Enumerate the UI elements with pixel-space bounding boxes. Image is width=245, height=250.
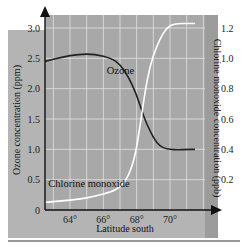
y-left-tick-label: 0.5 (28, 174, 41, 185)
y-axis-arrow-icon (40, 6, 50, 17)
y-left-tick-label: 0 (35, 205, 40, 216)
x-tick-label: 70° (163, 214, 177, 225)
y-right-tick-label: 1.2 (221, 23, 234, 34)
y-left-tick-label: 3.0 (28, 23, 41, 34)
y-left-tick-label: 1.0 (28, 144, 41, 155)
y-left-tick-label: 2.5 (28, 53, 41, 64)
series-label-chlorine-monoxide: Chlorine monoxide (48, 178, 130, 189)
y-axis-right-label: Chlorine monoxide concentration (ppb) (211, 39, 223, 198)
chart: 64°66°68°70°00.51.01.52.02.53.00.20.40.6… (0, 0, 245, 250)
y-axis-left-label: Ozone concentration (ppm) (11, 65, 23, 175)
y-left-tick-label: 2.0 (28, 83, 41, 94)
x-axis-label: Latitude south (96, 223, 154, 234)
y-left-tick-label: 1.5 (28, 114, 41, 125)
x-tick-label: 64° (63, 214, 77, 225)
series-label-ozone: Ozone (107, 65, 135, 76)
